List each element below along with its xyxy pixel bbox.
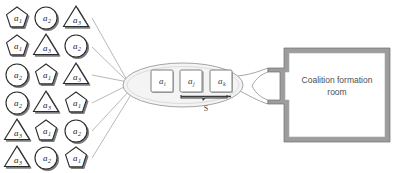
room-label-line2: room bbox=[327, 87, 346, 97]
coalition-member[interactable]: aj bbox=[180, 70, 202, 92]
diagram-canvas: a1a2a3a1a3a2a2a1a3a2a3a1a3a1a2a3a2a1 aia… bbox=[0, 0, 396, 173]
coalition-and-room-layer: aiajak S Coalition formation room bbox=[0, 0, 396, 173]
coalition-member[interactable]: ai bbox=[151, 70, 173, 92]
room-label-line1: Coalition formation bbox=[302, 75, 373, 85]
set-label: S bbox=[204, 104, 208, 113]
coalition-formation-room[interactable]: Coalition formation room bbox=[268, 48, 390, 142]
coalition-member[interactable]: ak bbox=[210, 70, 232, 92]
